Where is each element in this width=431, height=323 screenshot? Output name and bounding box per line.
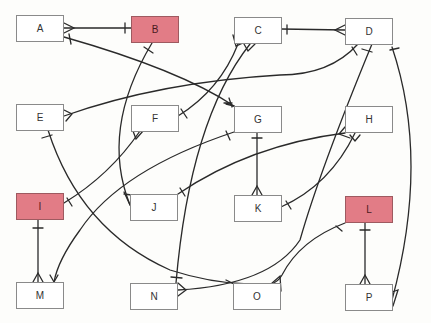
entity-g[interactable]: G — [234, 106, 282, 133]
edge-a-b — [64, 23, 131, 33]
entity-p[interactable]: P — [345, 284, 393, 311]
edge-l-p — [360, 223, 370, 284]
entity-m[interactable]: M — [16, 282, 64, 309]
entity-i[interactable]: I — [16, 193, 64, 220]
entity-label: I — [39, 201, 42, 212]
entity-label: L — [366, 204, 372, 215]
entity-label: O — [253, 291, 261, 302]
entity-c[interactable]: C — [234, 17, 282, 44]
edge-a-g — [64, 34, 234, 107]
entity-k[interactable]: K — [234, 195, 282, 222]
entity-label: G — [254, 114, 262, 125]
edge-c-n — [171, 44, 255, 283]
entity-o[interactable]: O — [233, 283, 281, 310]
entity-label: F — [152, 113, 158, 124]
entity-label: M — [36, 290, 44, 301]
entity-a[interactable]: A — [16, 15, 64, 42]
entity-label: C — [254, 25, 261, 36]
entity-f[interactable]: F — [131, 105, 179, 132]
entity-label: J — [152, 202, 157, 213]
entity-e[interactable]: E — [16, 104, 64, 131]
edge-h-j — [178, 127, 350, 196]
entity-label: H — [365, 114, 372, 125]
edge-d-e — [64, 44, 358, 121]
entity-j[interactable]: J — [130, 194, 178, 221]
entity-label: K — [255, 203, 262, 214]
edge-l-o — [271, 223, 345, 291]
entity-label: P — [366, 292, 373, 303]
entity-label: E — [37, 112, 44, 123]
entity-label: D — [365, 26, 372, 37]
entity-label: B — [152, 24, 159, 35]
relationship-lines — [0, 0, 431, 323]
entity-b[interactable]: B — [131, 16, 179, 43]
entity-l[interactable]: L — [345, 196, 393, 223]
edge-g-k — [252, 132, 262, 195]
entity-label: A — [37, 23, 44, 34]
entity-label: N — [150, 291, 157, 302]
edge-i-m — [33, 220, 43, 282]
edge-d-p — [390, 47, 411, 306]
entity-d[interactable]: D — [345, 18, 393, 45]
entity-h[interactable]: H — [345, 106, 393, 133]
edge-c-d — [281, 25, 345, 35]
entity-n[interactable]: N — [130, 283, 178, 310]
